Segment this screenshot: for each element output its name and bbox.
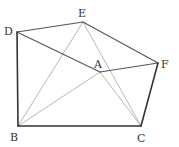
segment-c-f [141,63,158,126]
segment-a-b [18,72,100,126]
segment-d-b [17,32,18,126]
label-b: B [10,131,18,144]
segment-a-c [100,72,141,126]
label-c: C [137,132,145,145]
geometry-diagram: D E A F B C [0,0,179,147]
label-e: E [78,7,86,20]
diagram-svg: D E A F B C [0,0,179,147]
label-d: D [4,25,13,38]
label-a: A [93,58,103,71]
segment-d-e [17,22,83,32]
segment-d-a [17,32,100,72]
label-f: F [161,58,169,71]
